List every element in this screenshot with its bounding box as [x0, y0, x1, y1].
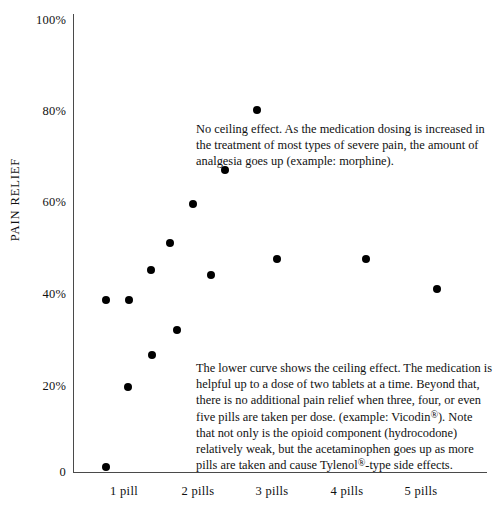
annotation-ceiling-effect: The lower curve shows the ceiling effect… [196, 360, 494, 473]
y-tick-80: 80% [0, 105, 66, 117]
data-point [102, 296, 110, 304]
annotation-no-ceiling-effect: No ceiling effect. As the medication dos… [196, 121, 494, 170]
data-point [433, 285, 441, 293]
data-point [148, 351, 156, 359]
data-point [207, 271, 215, 279]
y-tick-60: 60% [0, 196, 66, 208]
x-tick-label-2: 2 pills [181, 484, 214, 498]
y-axis-line [73, 14, 74, 472]
y-tick-100: 100% [0, 14, 66, 26]
annotation-text-part-3: -type side effects. [365, 458, 453, 472]
data-point [273, 255, 281, 263]
y-tick-40: 40% [0, 288, 66, 300]
y-tick-label: 80% [2, 105, 66, 117]
data-point [166, 239, 174, 247]
x-tick-label-4: 4 pills [330, 484, 363, 498]
x-tick-label-1: 1 pill [110, 484, 138, 498]
x-tick-label-3: 3 pills [255, 484, 288, 498]
data-point [253, 106, 261, 114]
data-point [125, 296, 133, 304]
y-tick-label: 20% [2, 380, 66, 392]
y-tick-label: 100% [2, 14, 66, 26]
pain-relief-scatter-chart: PAIN RELIEF 100% 80% 60% 40% 20% 0 1 pil… [0, 0, 500, 521]
registered-trademark-icon-vicodin: ® [430, 408, 438, 419]
y-tick-0: 0 [0, 466, 66, 478]
x-tick-label-5: 5 pills [404, 484, 437, 498]
data-point [189, 200, 197, 208]
y-tick-20: 20% [0, 380, 66, 392]
data-point [102, 463, 110, 471]
y-tick-label: 60% [2, 196, 66, 208]
data-point [124, 383, 132, 391]
data-point [173, 326, 181, 334]
data-point [362, 255, 370, 263]
data-point [147, 266, 155, 274]
y-tick-label: 0 [2, 466, 66, 478]
y-tick-label: 40% [2, 288, 66, 300]
